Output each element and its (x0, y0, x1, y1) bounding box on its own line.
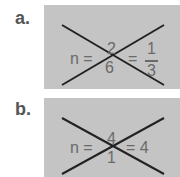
numerator: 4 (107, 131, 116, 147)
lhs: n = (70, 51, 93, 67)
problem-a-box: n = 2 6 = 1 3 (44, 5, 180, 89)
problem-a-label: a. (15, 8, 30, 29)
equals: = (128, 51, 137, 67)
problem-b-box: n = 4 1 = 4 (44, 98, 180, 177)
denominator: 6 (105, 60, 114, 76)
numerator: 2 (107, 41, 116, 57)
result: = 4 (126, 140, 149, 156)
result-numerator: 1 (147, 41, 156, 57)
result-denominator: 3 (147, 63, 156, 79)
problem-b-label: b. (15, 99, 31, 120)
lhs: n = (70, 140, 93, 156)
denominator: 1 (107, 150, 116, 166)
